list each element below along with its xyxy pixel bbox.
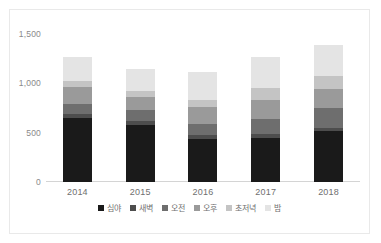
bar-group-2018[interactable]	[298, 34, 359, 182]
bar-segment-밤[interactable]	[188, 72, 217, 101]
bar-stack[interactable]	[126, 69, 155, 182]
bar-segment-밤[interactable]	[251, 57, 280, 88]
bar-segment-오전[interactable]	[188, 124, 217, 135]
bar-segment-오후[interactable]	[126, 97, 155, 110]
legend-item-오전[interactable]: 오전	[162, 202, 185, 213]
bar-group-2017[interactable]	[235, 34, 296, 182]
bar-segment-심야[interactable]	[126, 125, 155, 182]
bar-group-2016[interactable]	[172, 34, 233, 182]
legend-label: 오후	[203, 202, 217, 213]
bar-segment-심야[interactable]	[188, 139, 217, 182]
legend-label: 새벽	[139, 202, 153, 213]
legend-swatch-icon	[265, 205, 271, 211]
bar-segment-초저녁[interactable]	[188, 100, 217, 107]
legend-item-초저녁[interactable]: 초저녁	[226, 202, 256, 213]
bar-segment-오후[interactable]	[251, 100, 280, 120]
legend-label: 밤	[274, 202, 281, 213]
y-tick-label: 1,500	[19, 29, 41, 39]
legend-item-새벽[interactable]: 새벽	[130, 202, 153, 213]
legend-label: 오전	[171, 202, 185, 213]
x-axis-categories: 20142015201620172018	[46, 184, 360, 200]
bar-stack[interactable]	[63, 57, 92, 182]
legend-swatch-icon	[194, 205, 200, 211]
bar-group-2015[interactable]	[110, 34, 171, 182]
chart-legend: 심야새벽오전오후초저녁밤	[10, 202, 369, 213]
bar-segment-오전[interactable]	[63, 104, 92, 114]
legend-item-밤[interactable]: 밤	[265, 202, 281, 213]
bar-series-container	[46, 34, 360, 182]
y-tick-label: 0	[36, 177, 41, 187]
bar-stack[interactable]	[188, 72, 217, 182]
bar-segment-오전[interactable]	[126, 110, 155, 121]
bar-segment-오후[interactable]	[314, 89, 343, 108]
bar-stack[interactable]	[251, 57, 280, 182]
bar-segment-초저녁[interactable]	[251, 88, 280, 100]
legend-swatch-icon	[130, 205, 136, 211]
legend-swatch-icon	[226, 205, 232, 211]
bar-segment-심야[interactable]	[251, 138, 280, 182]
bar-segment-밤[interactable]	[63, 57, 92, 81]
bar-segment-오후[interactable]	[188, 107, 217, 124]
chart-frame: 05001,0001,500 20142015201620172018 심야새벽…	[9, 9, 370, 234]
bar-segment-밤[interactable]	[314, 45, 343, 76]
plot-area: 05001,0001,500	[46, 34, 360, 182]
bar-segment-오전[interactable]	[314, 108, 343, 128]
legend-item-오후[interactable]: 오후	[194, 202, 217, 213]
legend-label: 심야	[107, 202, 121, 213]
x-tick-label-2014: 2014	[47, 184, 108, 200]
legend-item-심야[interactable]: 심야	[98, 202, 121, 213]
bar-segment-밤[interactable]	[126, 69, 155, 92]
y-tick-label: 1,000	[19, 78, 41, 88]
legend-swatch-icon	[162, 205, 168, 211]
x-tick-label-2018: 2018	[298, 184, 359, 200]
bar-segment-심야[interactable]	[314, 131, 343, 182]
legend-swatch-icon	[98, 205, 104, 211]
x-tick-label-2015: 2015	[110, 184, 171, 200]
bar-segment-오후[interactable]	[63, 87, 92, 104]
legend-label: 초저녁	[235, 202, 256, 213]
bar-group-2014[interactable]	[47, 34, 108, 182]
y-tick-label: 500	[26, 128, 41, 138]
bar-segment-초저녁[interactable]	[314, 76, 343, 89]
x-tick-label-2016: 2016	[172, 184, 233, 200]
x-tick-label-2017: 2017	[235, 184, 296, 200]
bar-segment-오전[interactable]	[251, 119, 280, 133]
bar-segment-심야[interactable]	[63, 118, 92, 182]
bar-stack[interactable]	[314, 45, 343, 182]
